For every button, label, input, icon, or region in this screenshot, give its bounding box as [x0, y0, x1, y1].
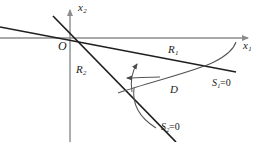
region-1-label: R1 — [168, 44, 178, 55]
s1-line-label: S1=0 — [212, 78, 231, 88]
s2-line — [53, 16, 176, 142]
s2-line-label: S2=0 — [161, 122, 180, 132]
s1-line — [0, 27, 236, 72]
s2-leader — [134, 88, 156, 128]
region-2-label: R2 — [76, 64, 86, 75]
y-axis-label: x2 — [78, 2, 86, 13]
origin-label: O — [58, 40, 67, 52]
diagram-canvas — [0, 0, 260, 142]
d-curve-label: D — [170, 84, 178, 95]
region-diagram: x2 x1 O R1 R2 D S1=0 S2=0 — [0, 0, 260, 142]
x-axis-label: x1 — [243, 40, 251, 51]
